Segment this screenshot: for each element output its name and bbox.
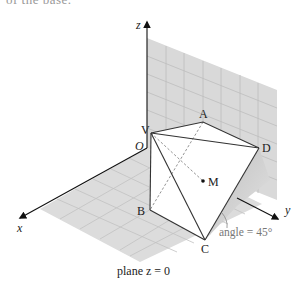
vertex-d-label: D bbox=[262, 141, 271, 155]
y-axis-label: y bbox=[284, 203, 291, 217]
plane-caption: plane z = 0 bbox=[117, 264, 170, 278]
angle-annotation: angle = 45° bbox=[219, 226, 273, 239]
vertex-b-label: B bbox=[137, 204, 145, 218]
pyramid-diagram: z x y O V A D B C M angle = 45° plane z … bbox=[0, 0, 307, 285]
vertex-a-label: A bbox=[199, 107, 208, 121]
vertex-c-label: C bbox=[201, 242, 209, 256]
point-m-dot bbox=[201, 179, 205, 183]
x-axis-label: x bbox=[16, 221, 23, 235]
origin-label: O bbox=[135, 139, 144, 153]
z-axis-label: z bbox=[135, 18, 141, 32]
point-m-label: M bbox=[208, 175, 219, 189]
vertex-v-label: V bbox=[141, 123, 150, 137]
